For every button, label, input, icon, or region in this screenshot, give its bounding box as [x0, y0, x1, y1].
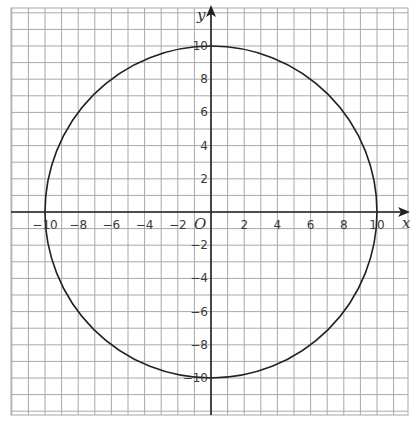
x-axis-label: x	[402, 214, 411, 232]
y-axis-label: y	[196, 6, 206, 24]
y-tick-label: −8	[190, 338, 208, 352]
x-tick-label: −6	[103, 218, 121, 232]
y-tick-label: −6	[190, 305, 208, 319]
y-tick-label: 8	[200, 72, 208, 86]
axes	[11, 5, 410, 415]
y-tick-label: 4	[200, 139, 208, 153]
x-tick-label: 6	[307, 218, 315, 232]
y-tick-label: −2	[190, 238, 208, 252]
x-tick-label: 4	[274, 218, 282, 232]
y-tick-label: −10	[183, 371, 208, 385]
y-tick-label: 2	[200, 172, 208, 186]
x-tick-label: −10	[32, 218, 57, 232]
x-tick-label: 8	[340, 218, 348, 232]
y-tick-label: 6	[200, 105, 208, 119]
x-tick-label: −4	[136, 218, 154, 232]
y-tick-label: 10	[193, 39, 208, 53]
x-tick-label: 10	[369, 218, 384, 232]
origin-label: O	[194, 215, 206, 233]
x-tick-labels: −10−8−6−4−2246810	[32, 218, 384, 232]
x-tick-label: −8	[69, 218, 87, 232]
y-tick-label: −4	[190, 271, 208, 285]
coordinate-plane: −10−8−6−4−2246810 108642−2−4−6−8−10 x y …	[0, 0, 416, 424]
x-tick-label: −2	[169, 218, 187, 232]
x-tick-label: 2	[240, 218, 248, 232]
